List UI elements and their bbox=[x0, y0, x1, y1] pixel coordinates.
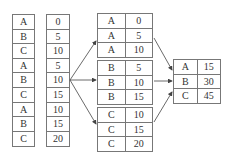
arrows-layer bbox=[0, 0, 226, 160]
combine-arrow-c bbox=[154, 92, 172, 122]
split-arrow-a bbox=[70, 41, 96, 80]
split-arrow-c bbox=[70, 80, 96, 124]
combine-arrow-a bbox=[154, 38, 172, 70]
